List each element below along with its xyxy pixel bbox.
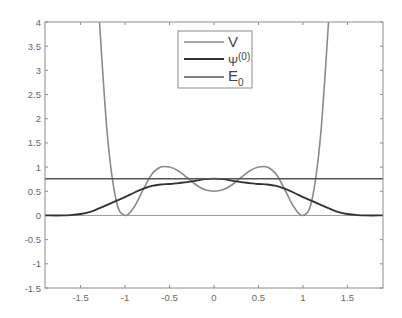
y-tick-label: 3.5 — [28, 41, 41, 52]
x-tick-label: -1.5 — [72, 292, 88, 303]
y-tick-label: 2 — [36, 113, 41, 124]
legend-label-e0-sub: 0 — [238, 77, 244, 88]
v-curve-left-ext — [94, 0, 98, 5]
y-tick-label: -1 — [33, 258, 41, 269]
v-curve-right-ext — [330, 0, 334, 5]
x-tick-label: -1 — [121, 292, 129, 303]
y-tick-label: 1 — [36, 162, 41, 173]
x-tick-label: 0.5 — [252, 292, 265, 303]
y-tick-label: 0.5 — [28, 186, 41, 197]
y-tick-label: -1.5 — [25, 283, 41, 294]
y-tick-label: 1.5 — [28, 137, 41, 148]
legend-label-e0-main: E — [228, 67, 238, 84]
x-tick-label: 1 — [300, 292, 305, 303]
y-tick-label: 2.5 — [28, 89, 41, 100]
legend: V Ψ(0) E0 — [178, 31, 252, 88]
y-tick-label: 3 — [36, 65, 41, 76]
y-tick-label: 0 — [36, 210, 41, 221]
x-tick-label: -0.5 — [161, 292, 177, 303]
y-tick-label: -0.5 — [25, 234, 41, 245]
legend-label-psi-sup: (0) — [238, 51, 250, 62]
legend-label-v: V — [228, 33, 238, 50]
chart: -1.5-1-0.500.511.522.533.54 -1.5-1-0.500… — [0, 0, 402, 318]
x-tick-label: 1.5 — [341, 292, 354, 303]
y-tick-label: 4 — [36, 17, 41, 28]
x-tick-label: 0 — [211, 292, 216, 303]
